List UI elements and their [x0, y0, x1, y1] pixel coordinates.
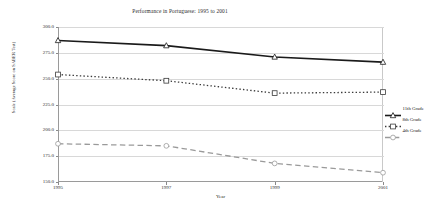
y-tick-mark [56, 27, 59, 28]
chart-legend: 11th Grade8th Grade4th Grade [385, 103, 447, 136]
gridline [59, 79, 384, 80]
legend-label: 4th Grade [403, 128, 422, 133]
legend-item[interactable]: 4th Grade [385, 125, 447, 136]
legend-swatch-icon [385, 105, 401, 112]
legend-label: 11th Grade [403, 106, 424, 111]
gridline [59, 105, 384, 106]
y-tick-mark [56, 79, 59, 80]
legend-item[interactable]: 11th Grade [385, 103, 447, 114]
gridline [59, 27, 384, 28]
x-tick-label: 2001 [363, 185, 403, 190]
y-tick-label: 250.0 [28, 76, 54, 81]
y-tick-label: 200.0 [28, 127, 54, 132]
data-point-marker [391, 135, 396, 140]
gridline [59, 156, 384, 157]
plot-area [58, 27, 383, 182]
gridline [59, 130, 384, 131]
y-tick-label: 175.0 [28, 153, 54, 158]
chart-title: Performance in Portuguese: 1995 to 2001 [0, 8, 360, 14]
chart-container: Performance in Portuguese: 1995 to 2001 … [0, 0, 447, 211]
y-tick-label: 275.0 [28, 50, 54, 55]
y-tick-label: 150.0 [28, 179, 54, 184]
x-tick-label: 1995 [38, 185, 78, 190]
y-tick-mark [56, 130, 59, 131]
x-tick-label: 1997 [146, 185, 186, 190]
legend-swatch-icon [385, 116, 401, 123]
x-tick-mark [383, 182, 384, 185]
legend-label: 8th Grade [403, 117, 422, 122]
x-axis-title: Year [58, 194, 383, 199]
gridline [59, 53, 384, 54]
y-tick-label: 300.0 [28, 24, 54, 29]
y-tick-mark [56, 156, 59, 157]
legend-item[interactable]: 8th Grade [385, 114, 447, 125]
x-tick-mark [275, 182, 276, 185]
y-tick-label: 225.0 [28, 102, 54, 107]
x-tick-mark [58, 182, 59, 185]
legend-swatch-icon [385, 127, 401, 134]
y-tick-mark [56, 53, 59, 54]
y-axis-title: Scale (Average Score on SABER Test) [11, 13, 16, 143]
x-tick-label: 1999 [255, 185, 295, 190]
x-tick-mark [166, 182, 167, 185]
y-tick-mark [56, 105, 59, 106]
